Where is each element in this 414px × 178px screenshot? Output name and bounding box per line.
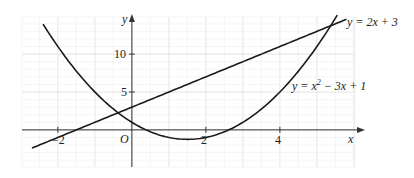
y-axis-arrow-icon [129,14,135,22]
y-axis-label: y [121,12,128,26]
y-tick-label-10: 10 [114,47,126,61]
y-tick-label-5: 5 [121,85,127,99]
x-tick-label-neg2: −2 [52,133,65,147]
graph-canvas: y x O −2 2 4 5 10 y = 2x + 3 y = x2 − 3x… [0,0,414,178]
x-tick-label-2: 2 [201,133,207,147]
parabola-curve [43,15,337,139]
labels: y x O −2 2 4 5 10 y = 2x + 3 y = x2 − 3x… [52,12,398,147]
line-equation-label: y = 2x + 3 [346,15,398,29]
x-axis-arrow-icon [357,127,365,133]
x-tick-label-4: 4 [275,133,281,147]
origin-label: O [120,132,129,146]
parabola-equation-label: y = x2 − 3x + 1 [291,78,366,93]
x-axis-label: x [347,132,354,146]
